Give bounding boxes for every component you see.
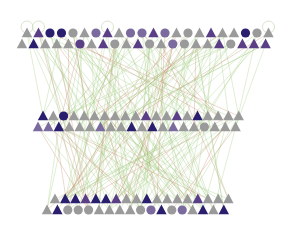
- circle-node[interactable]: [45, 28, 54, 37]
- triangle-node[interactable]: [133, 39, 143, 49]
- triangle-node[interactable]: [42, 205, 52, 215]
- triangle-node[interactable]: [230, 122, 240, 132]
- circle-node[interactable]: [63, 205, 72, 214]
- circle-node[interactable]: [84, 205, 93, 214]
- triangle-node[interactable]: [237, 39, 247, 49]
- triangle-node[interactable]: [38, 111, 48, 121]
- circle-node[interactable]: [145, 39, 154, 48]
- triangle-node[interactable]: [223, 111, 233, 121]
- circle-node[interactable]: [167, 205, 176, 214]
- triangle-node[interactable]: [198, 205, 208, 215]
- circle-node[interactable]: [57, 28, 66, 37]
- triangle-node[interactable]: [219, 205, 229, 215]
- triangle-node[interactable]: [22, 28, 32, 38]
- triangle-node[interactable]: [33, 122, 43, 132]
- circle-node[interactable]: [252, 28, 261, 37]
- triangle-node[interactable]: [114, 28, 124, 38]
- circle-node[interactable]: [126, 28, 135, 37]
- network-diagram: [0, 0, 296, 230]
- triangle-node[interactable]: [156, 205, 166, 215]
- triangle-node[interactable]: [263, 28, 273, 38]
- triangle-node[interactable]: [50, 194, 60, 204]
- triangle-node[interactable]: [33, 28, 43, 38]
- circle-node[interactable]: [241, 28, 250, 37]
- triangle-node[interactable]: [234, 111, 244, 121]
- triangle-node[interactable]: [125, 205, 135, 215]
- triangle-node[interactable]: [52, 205, 62, 215]
- triangle-node[interactable]: [217, 28, 227, 38]
- circle-node[interactable]: [183, 28, 192, 37]
- triangle-node[interactable]: [48, 111, 58, 121]
- triangle-node[interactable]: [194, 28, 204, 38]
- triangle-node[interactable]: [223, 194, 233, 204]
- circle-node[interactable]: [180, 39, 189, 48]
- triangle-node[interactable]: [171, 28, 181, 38]
- triangle-node[interactable]: [79, 28, 89, 38]
- circle-node[interactable]: [178, 205, 187, 214]
- triangle-node[interactable]: [115, 205, 125, 215]
- edge: [92, 44, 95, 116]
- triangle-node[interactable]: [74, 122, 84, 132]
- circle-node[interactable]: [226, 39, 235, 48]
- circle-node[interactable]: [168, 39, 177, 48]
- triangle-node[interactable]: [110, 111, 120, 121]
- circle-node[interactable]: [136, 205, 145, 214]
- circle-node[interactable]: [200, 122, 209, 131]
- edge: [172, 127, 236, 210]
- edges-layer: [27, 33, 269, 210]
- circle-node[interactable]: [75, 39, 84, 48]
- triangle-node[interactable]: [214, 39, 224, 49]
- triangle-node[interactable]: [191, 39, 201, 49]
- circle-node[interactable]: [74, 205, 83, 214]
- triangle-node[interactable]: [208, 205, 218, 215]
- triangle-node[interactable]: [98, 39, 108, 49]
- triangle-node[interactable]: [229, 28, 239, 38]
- edge: [141, 127, 226, 210]
- triangle-node[interactable]: [102, 28, 112, 38]
- triangle-node[interactable]: [17, 39, 27, 49]
- circle-node[interactable]: [110, 39, 119, 48]
- triangle-node[interactable]: [94, 205, 104, 215]
- circle-node[interactable]: [146, 205, 155, 214]
- triangle-node[interactable]: [148, 28, 158, 38]
- triangle-node[interactable]: [206, 28, 216, 38]
- triangle-node[interactable]: [43, 122, 53, 132]
- circle-node[interactable]: [160, 28, 169, 37]
- circle-node[interactable]: [59, 111, 68, 120]
- triangle-node[interactable]: [101, 194, 111, 204]
- circle-node[interactable]: [137, 28, 146, 37]
- circle-node[interactable]: [68, 28, 77, 37]
- circle-node[interactable]: [91, 28, 100, 37]
- triangle-node[interactable]: [147, 122, 157, 132]
